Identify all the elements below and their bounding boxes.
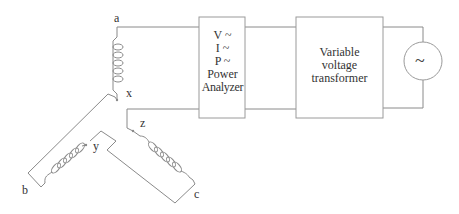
wire-a — [113, 27, 199, 41]
variable-transformer-label: Variable voltage transformer — [296, 46, 383, 85]
wire-y-c — [90, 131, 195, 203]
coil-z-c — [132, 130, 193, 180]
ac-source-icon: ~ — [415, 52, 425, 70]
wire-bottom-right — [383, 80, 423, 108]
terminal-label-b: b — [22, 184, 28, 196]
power-analyzer-label: V ~ I ~ P ~ Power Analyzer — [199, 29, 246, 94]
wire-z — [127, 109, 199, 131]
terminal-label-c: c — [194, 188, 199, 200]
wire-x-b — [28, 94, 117, 187]
terminal-label-z: z — [140, 117, 145, 129]
wire-top-right — [383, 27, 423, 42]
transformer-line-3: transformer — [296, 72, 383, 85]
coil-a-x — [113, 41, 123, 101]
terminal-label-a: a — [114, 12, 119, 24]
coil-b-y — [45, 141, 87, 183]
terminal-label-x: x — [126, 87, 132, 99]
terminal-label-y: y — [93, 140, 99, 152]
analyzer-line-title2: Analyzer — [199, 81, 246, 94]
